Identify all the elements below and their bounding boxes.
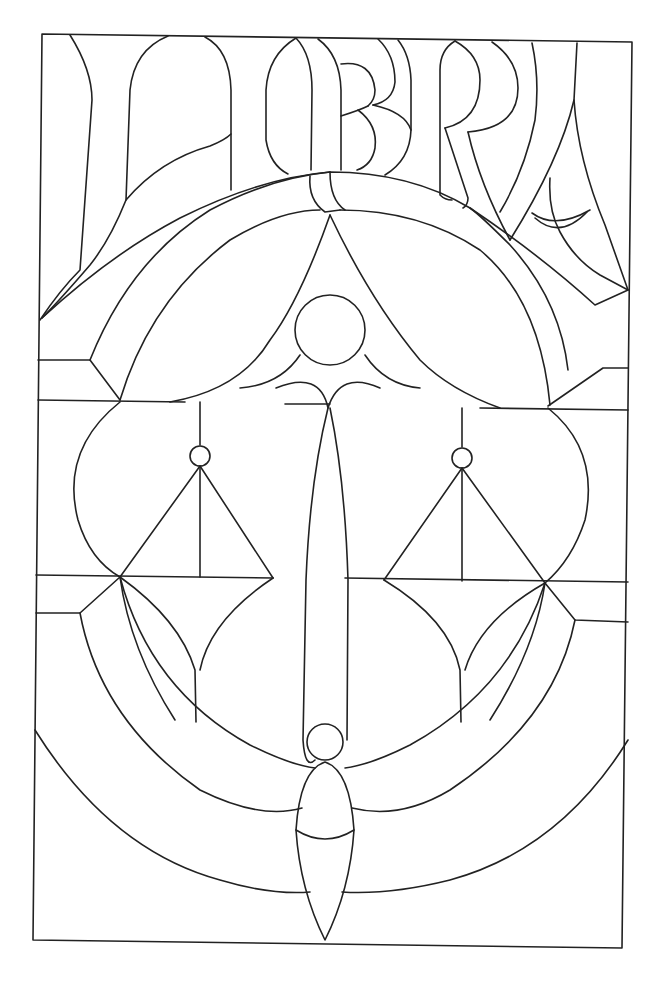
letter-r — [440, 41, 518, 240]
arch-upper-bands — [90, 172, 568, 405]
letter-b — [341, 39, 411, 175]
side-lobes — [74, 402, 589, 583]
left-scale-ring — [190, 446, 210, 466]
scale-right — [384, 408, 545, 583]
top-center-circle — [295, 295, 365, 365]
lower-bands — [35, 577, 628, 893]
outer-frame — [33, 34, 632, 948]
central-petals — [170, 215, 500, 408]
lower-petals — [120, 577, 545, 722]
libra-stained-glass-pattern — [0, 0, 661, 981]
letter-i — [266, 38, 341, 174]
central-pillar — [303, 408, 348, 763]
scale-left — [120, 402, 273, 578]
pillar-knob — [307, 724, 343, 760]
letter-a — [500, 43, 628, 290]
right-scale-ring — [452, 448, 472, 468]
bottom-drop — [296, 762, 354, 940]
